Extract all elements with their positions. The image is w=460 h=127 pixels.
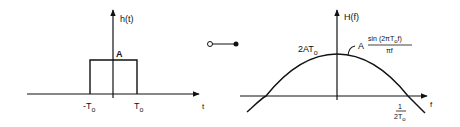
right-plot: H(f) 2ATo A sin (2πTof) πf 1 2To f xyxy=(240,10,433,122)
formula-numerator: sin (2πTof) xyxy=(368,35,402,44)
t0-tick: To xyxy=(134,101,144,113)
formula-prefix: A xyxy=(358,41,364,51)
neg-t0-tick: -To xyxy=(83,101,96,113)
zero-tick-denominator: 2To xyxy=(394,113,406,122)
left-plot: h(t) A -To To t xyxy=(27,10,205,113)
f-axis-label: f xyxy=(430,100,433,109)
amplitude-label: A xyxy=(116,49,123,59)
open-circle-icon xyxy=(208,42,213,47)
transform-pair-connector xyxy=(208,42,239,47)
formula-denominator: πf xyxy=(386,47,393,54)
peak-label: 2ATo xyxy=(298,44,318,56)
filled-circle-icon xyxy=(234,42,239,47)
t-axis-label: t xyxy=(202,102,205,111)
h-f-label: H(f) xyxy=(344,12,359,22)
fourier-transform-diagram: h(t) A -To To t H(f) 2ATo A sin (2πTof) … xyxy=(0,0,460,127)
zero-tick-numerator: 1 xyxy=(398,103,402,110)
h-t-label: h(t) xyxy=(120,14,134,24)
formula-pointer xyxy=(348,46,355,55)
